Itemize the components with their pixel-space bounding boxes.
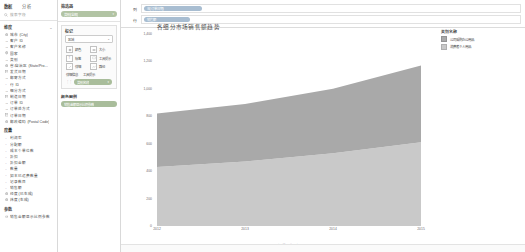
tableau-workbook-window: 数据 分析 搜索字段 维度 ⌄ 城市 (City)Abc客户 IDAbc客户名称… <box>0 0 525 252</box>
marks-button-label: 大小 <box>99 47 105 52</box>
legend-item-label: 消费者个人用品 <box>450 44 471 49</box>
globe-icon <box>5 192 8 195</box>
globe-icon <box>5 33 8 36</box>
legend: 类别名称 公司采购办公用品消费者个人用品 <box>435 22 525 252</box>
y-axis-tick-label: 600 <box>146 142 152 146</box>
marks-button-label: 标签 <box>75 56 81 61</box>
data-pane-tabs: 数据 分析 <box>0 0 57 11</box>
drag-handle-icon[interactable]: ⋮⋮ <box>66 80 72 84</box>
svg-text:#: # <box>5 149 7 152</box>
measures-header: 度量 <box>0 124 57 135</box>
dimension-item-label: 订单处方式 <box>10 106 30 111</box>
calendar-icon <box>5 113 8 116</box>
parameters-header: 参数 <box>0 203 57 214</box>
marks-button-color[interactable]: 颜色 <box>66 46 88 53</box>
y-axis-tick-label: 0 <box>150 224 152 228</box>
measure-item-label: 销售额 <box>10 185 22 190</box>
tooltip-label: 工具提示 <box>83 72 95 77</box>
chevron-down-icon[interactable]: ⌄ <box>107 37 110 41</box>
measure-item-label: 分配额 <box>10 142 22 147</box>
chart-container: 各细分市场销售额趋势 02004006008001,0001,2001,400 … <box>121 22 525 252</box>
columns-shelf-label: 列 <box>125 6 137 12</box>
measures-list: #利润率#分配额#成本个单位数#折扣#折扣金额#数量#如本已运费数量#记录数目#… <box>0 135 57 203</box>
filter-pill-category[interactable]: 类别(全部) ▾ <box>61 11 117 17</box>
y-axis-tick-label: 1,400 <box>144 32 153 36</box>
marks-button-label: 颜色 <box>75 47 81 52</box>
svg-text:Abc: Abc <box>5 77 8 79</box>
stacked-area-chart[interactable] <box>157 34 421 226</box>
number-icon: # <box>5 155 8 158</box>
tooltip-icon <box>90 55 97 62</box>
abc-icon: Abc <box>5 89 8 92</box>
search-field[interactable]: 搜索字段 <box>0 11 57 21</box>
marks-pill-category-name[interactable]: 类别名称 ▾ <box>74 79 112 85</box>
size-icon <box>90 46 97 53</box>
cards-column: 筛选器 类别(全部) ▾ 标记 区域 ⌄ 颜色 <box>58 0 121 252</box>
x-axis-tick-label: 2014 <box>329 227 337 231</box>
measure-item-label: 经度(已生成) <box>10 191 32 196</box>
dimensions-menu-icon[interactable]: ⌄ <box>49 25 53 30</box>
filters-header: 筛选器 <box>61 3 117 9</box>
marks-button-detail[interactable]: 详细 <box>66 63 88 70</box>
number-icon: # <box>5 173 8 176</box>
tab-data[interactable]: 数据 <box>4 3 12 9</box>
svg-text:Abc: Abc <box>5 46 8 48</box>
columns-pill-label: 年(订单日期) <box>147 6 164 11</box>
label-icon: T <box>66 55 73 62</box>
marks-button-path[interactable]: 路径 <box>90 63 112 70</box>
dimension-item-label: 订单日期 <box>10 113 26 118</box>
tab-analytics[interactable]: 分析 <box>22 3 30 9</box>
columns-shelf-well[interactable]: 年(订单日期) <box>141 4 521 13</box>
svg-text:#: # <box>5 174 7 177</box>
filters-card: 筛选器 类别(全部) ▾ <box>58 0 120 17</box>
number-icon: # <box>5 186 8 189</box>
abc-icon: Abc <box>5 76 8 79</box>
dimension-item-label: 客户 ID <box>10 38 23 43</box>
marks-buttons-grid: 颜色 大小 T 标签 工 <box>62 45 116 72</box>
marks-button-size[interactable]: 大小 <box>90 46 112 53</box>
detail-icon <box>66 63 73 70</box>
svg-text:#: # <box>5 180 7 183</box>
y-axis-tick-label: 800 <box>146 114 152 118</box>
svg-text:#: # <box>5 137 7 140</box>
data-pane: 数据 分析 搜索字段 维度 ⌄ 城市 (City)Abc客户 IDAbc客户名称… <box>0 0 58 252</box>
abc-icon: Abc <box>5 101 8 104</box>
columns-pill-order-date[interactable]: 年(订单日期) <box>144 6 202 11</box>
marks-button-label-shelf[interactable]: T 标签 <box>66 55 88 62</box>
color-legend-pill-label: 销售金额显示比例参数 <box>64 102 94 107</box>
plot-area[interactable] <box>157 34 421 226</box>
dimension-item-label: 邮政编码 (Postal Code) <box>10 119 49 124</box>
color-legend-pill[interactable]: 销售金额显示比例参数 <box>61 101 117 107</box>
dimension-item-label: 城市 (City) <box>10 32 28 37</box>
parameter-item-label: 销售金额显示比例参数 <box>10 214 50 219</box>
dimensions-list: 城市 (City)Abc客户 IDAbc客户名称国家Abc类别省/自治区 (St… <box>0 32 57 125</box>
dimension-item-label: 国家 <box>10 51 18 56</box>
measure-item-label: 纬度(生成) <box>10 197 28 202</box>
abc-icon: Abc <box>5 107 8 110</box>
chevron-down-icon[interactable]: ▾ <box>107 80 109 84</box>
legend-item[interactable]: 消费者个人用品 <box>441 44 521 50</box>
svg-text:#: # <box>5 162 7 165</box>
globe-icon <box>5 64 8 67</box>
card-divider <box>58 21 120 22</box>
svg-text:Abc: Abc <box>5 58 8 60</box>
parameter-item[interactable]: 销售金额显示比例参数 <box>0 213 57 219</box>
number-icon: # <box>5 180 8 183</box>
chevron-down-icon[interactable]: ▾ <box>112 12 114 16</box>
dimension-item-label: 细分方式 <box>10 88 26 93</box>
marks-header: 标记 <box>62 26 116 35</box>
mark-type-dropdown[interactable]: 区域 ⌄ <box>65 35 113 43</box>
svg-text:#: # <box>5 155 7 158</box>
color-icon <box>66 46 73 53</box>
marks-button-tooltip[interactable]: 工具提示 <box>90 55 112 62</box>
legend-item[interactable]: 公司采购办公用品 <box>441 36 521 42</box>
param-icon <box>5 215 8 218</box>
filter-pill-label: 类别(全部) <box>64 12 78 17</box>
measure-item-label: 成本个单位数 <box>10 148 34 153</box>
y-axis-tick-label: 1,200 <box>144 59 153 63</box>
abc-icon: Abc <box>5 45 8 48</box>
svg-text:#: # <box>5 186 7 189</box>
svg-text:#: # <box>5 143 7 146</box>
y-axis-tick-label: 1,000 <box>144 87 153 91</box>
abc-icon: Abc <box>5 39 8 42</box>
